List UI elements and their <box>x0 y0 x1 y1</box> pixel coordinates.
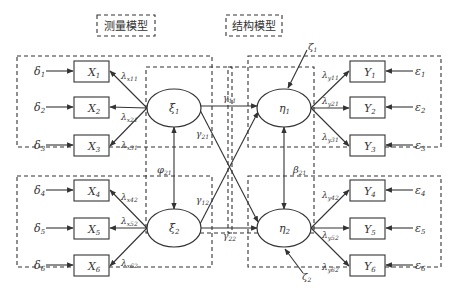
latent-eta1: η1 <box>257 89 311 127</box>
svg-text:δ4: δ4 <box>34 184 45 198</box>
x-indicators: X1 X2 X3 X4 X5 X6 <box>74 61 109 276</box>
svg-text:δ5: δ5 <box>34 222 46 236</box>
svg-text:ε1: ε1 <box>415 65 425 79</box>
svg-text:λx62: λx62 <box>120 258 138 269</box>
svg-text:γ12: γ12 <box>196 195 209 206</box>
structural-model-label: 结构模型 <box>226 15 282 36</box>
svg-text:δ3: δ3 <box>34 139 46 153</box>
epsilon-errors: ε1 ε2 ε3 ε4 ε5 ε6 <box>386 65 426 273</box>
sem-diagram: 测量模型 结构模型 X1 X2 X3 X4 X5 X6 δ1 δ2 δ3 <box>0 0 456 297</box>
svg-text:λx11: λx11 <box>120 71 138 82</box>
svg-text:φ21: φ21 <box>157 164 172 176</box>
svg-text:结构模型: 结构模型 <box>232 19 276 33</box>
svg-text:λx21: λx21 <box>120 112 138 123</box>
x-loadings: λx11 λx21 λx31 λx42 λx52 λx62 <box>110 71 147 269</box>
svg-text:ε5: ε5 <box>415 222 426 236</box>
svg-text:λy62: λy62 <box>321 262 339 274</box>
latent-xi2: ξ2 <box>147 209 201 247</box>
delta-errors: δ1 δ2 δ3 δ4 δ5 δ6 <box>34 65 73 273</box>
svg-text:λy42: λy42 <box>321 190 339 202</box>
svg-text:λx31: λx31 <box>120 140 138 151</box>
svg-text:γ11: γ11 <box>223 93 236 104</box>
svg-text:ε6: ε6 <box>415 259 426 273</box>
y-indicators: Y1 Y2 Y3 Y4 Y5 Y6 <box>350 61 385 276</box>
svg-text:λy52: λy52 <box>321 230 339 242</box>
svg-text:δ1: δ1 <box>34 65 45 79</box>
latent-xi1: ξ1 <box>147 89 201 127</box>
svg-text:ε2: ε2 <box>415 101 426 115</box>
svg-text:λy21: λy21 <box>321 96 339 108</box>
svg-text:测量模型: 测量模型 <box>104 19 148 33</box>
svg-text:λx42: λx42 <box>120 192 138 203</box>
svg-text:ζ2: ζ2 <box>302 271 311 283</box>
svg-text:λx52: λx52 <box>120 216 138 227</box>
svg-text:γ21: γ21 <box>196 129 209 140</box>
latent-eta2: η2 <box>257 209 311 247</box>
svg-text:ε3: ε3 <box>415 139 426 153</box>
svg-text:λy11: λy11 <box>321 70 339 82</box>
svg-text:ζ1: ζ1 <box>308 41 317 53</box>
y-loadings: λy11 λy21 λy31 λy42 λy52 λy62 <box>311 70 349 274</box>
svg-text:δ2: δ2 <box>34 101 46 115</box>
svg-text:β21: β21 <box>292 164 306 176</box>
svg-text:δ6: δ6 <box>34 259 46 273</box>
svg-text:ε4: ε4 <box>415 184 425 198</box>
measurement-model-label: 测量模型 <box>97 15 155 36</box>
